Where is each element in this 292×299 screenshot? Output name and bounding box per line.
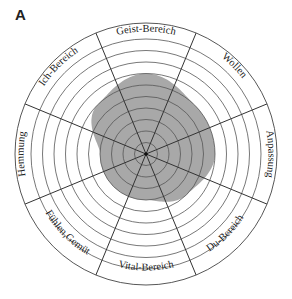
- segment-label: Du-Bereich: [204, 212, 246, 254]
- segment-label: Hemmung: [14, 130, 27, 178]
- segment-label: Vital-Bereich: [117, 258, 175, 272]
- segment-label: Anpassung: [264, 129, 277, 179]
- radial-profile-diagram: Geist-BereichWollenAnpassungDu-BereichVi…: [0, 0, 292, 299]
- center-point: [144, 152, 148, 156]
- segment-label: Wollen: [220, 50, 250, 80]
- segment-label: Geist-Bereich: [115, 23, 178, 38]
- segment-label: Ich-Bereich: [36, 44, 80, 88]
- segment-label: Fühlen,Gemüt: [43, 208, 92, 257]
